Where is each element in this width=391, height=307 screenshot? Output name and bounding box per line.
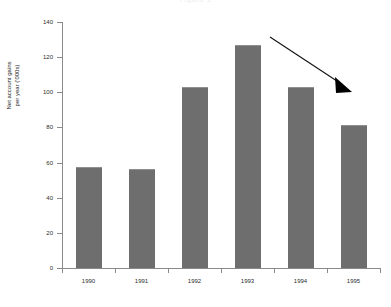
x-axis-tick xyxy=(221,269,222,273)
x-axis-tick xyxy=(62,269,63,273)
y-axis-tick-label: 140 xyxy=(13,19,53,25)
y-axis-tick-label: 120 xyxy=(13,54,53,60)
x-axis-tick xyxy=(274,269,275,273)
x-axis-tick xyxy=(327,269,328,273)
y-axis-tick-label: 60 xyxy=(13,160,53,166)
y-axis-tick-label: 20 xyxy=(13,230,53,236)
chart-title: Figure 1 xyxy=(0,0,391,3)
bar-1992 xyxy=(182,87,208,268)
x-axis-tick-label: 1992 xyxy=(169,278,221,285)
x-axis-tick-label: 1994 xyxy=(275,278,327,285)
x-axis-tick xyxy=(168,269,169,273)
x-axis-tick-label: 1993 xyxy=(222,278,274,285)
bar-1994 xyxy=(288,87,314,268)
y-axis-tick-label: 0 xyxy=(13,265,53,271)
x-axis-tick xyxy=(380,269,381,273)
bar-1990 xyxy=(76,167,102,268)
x-axis-tick xyxy=(115,269,116,273)
y-axis-tick-label: 80 xyxy=(13,124,53,130)
y-axis-tick-label: 100 xyxy=(13,89,53,95)
plot-area xyxy=(62,22,380,268)
y-axis-title: Net account gains per year ('000s) xyxy=(6,16,21,156)
bar-1991 xyxy=(129,169,155,268)
x-axis-tick-label: 1995 xyxy=(328,278,380,285)
bar-1995 xyxy=(341,125,367,268)
bar-chart-figure: Figure 1 Net account gains per year ('00… xyxy=(0,0,391,307)
bar-1993 xyxy=(235,45,261,268)
y-axis-tick-label: 40 xyxy=(13,195,53,201)
x-axis-tick-label: 1991 xyxy=(116,278,168,285)
x-axis-tick-label: 1990 xyxy=(63,278,115,285)
